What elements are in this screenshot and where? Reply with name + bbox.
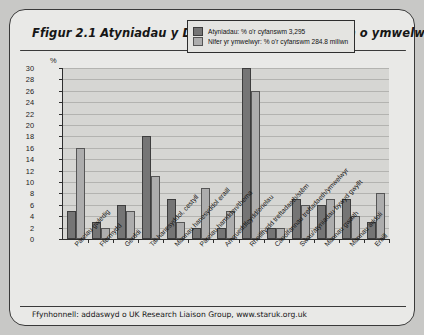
x-axis-tick-mark — [339, 239, 340, 243]
y-axis-tick-label: 22 — [8, 109, 34, 118]
y-axis-tick-label: 8 — [8, 189, 34, 198]
legend-item-atyniadau: Atyniadau: % o'r cyfanswm 3,295 — [193, 27, 348, 36]
x-axis-tick-mark — [213, 239, 214, 243]
y-axis-tick-label: 4 — [8, 212, 34, 221]
x-axis-tick-mark — [389, 239, 390, 243]
y-axis-tick-label: 6 — [8, 200, 34, 209]
y-axis-tick-label: 18 — [8, 132, 34, 141]
legend-swatch-icon — [193, 37, 203, 46]
legend-swatch-icon — [193, 27, 203, 36]
bar-group — [138, 68, 163, 239]
y-axis-tick-label: 0 — [8, 235, 34, 244]
x-axis-tick-mark — [364, 239, 365, 243]
y-axis-tick-label: 30 — [8, 64, 34, 73]
bar-group — [113, 68, 138, 239]
legend-label: Nifer yr ymwelwyr: % o'r cyfanswm 284.8 … — [208, 38, 348, 45]
y-axis-tick-label: 2 — [8, 223, 34, 232]
source-note: Ffynhonnell: addaswyd o UK Research Liai… — [32, 310, 307, 319]
x-axis-tick-mark — [88, 239, 89, 243]
bar-group — [63, 68, 88, 239]
y-axis-label: % — [50, 56, 57, 65]
y-axis-tick-label: 26 — [8, 86, 34, 95]
x-axis-tick-mark — [163, 239, 164, 243]
chart-legend: Atyniadau: % o'r cyfanswm 3,295 Nifer yr… — [187, 20, 355, 53]
y-axis-tick-label: 16 — [8, 143, 34, 152]
x-axis-tick-mark — [138, 239, 139, 243]
bar — [142, 136, 151, 239]
x-axis-tick-mark — [289, 239, 290, 243]
bar — [76, 148, 85, 239]
bar — [151, 176, 160, 239]
x-axis-tick-mark — [314, 239, 315, 243]
x-axis-tick-mark — [188, 239, 189, 243]
y-axis-tick-label: 28 — [8, 75, 34, 84]
y-axis-tick-label: 10 — [8, 178, 34, 187]
legend-label: Atyniadau: % o'r cyfanswm 3,295 — [208, 28, 305, 35]
x-axis-tick-mark — [113, 239, 114, 243]
figure-card: Ffigur 2.1 Atyniadau y DU yn ôl y math a… — [9, 9, 415, 326]
footer-divider — [20, 306, 406, 307]
y-axis-tick-label: 20 — [8, 121, 34, 130]
y-axis-tick-label: 12 — [8, 166, 34, 175]
x-axis-tick-mark — [264, 239, 265, 243]
bar — [67, 211, 76, 240]
x-axis-tick-mark — [239, 239, 240, 243]
legend-item-ymwelwyr: Nifer yr ymwelwyr: % o'r cyfanswm 284.8 … — [193, 37, 348, 46]
y-axis-tick-mark — [59, 239, 63, 240]
y-axis-tick-label: 14 — [8, 155, 34, 164]
chart-area: % 024681012141618202224262830Parciau gwl… — [10, 10, 416, 327]
y-axis-tick-label: 24 — [8, 98, 34, 107]
